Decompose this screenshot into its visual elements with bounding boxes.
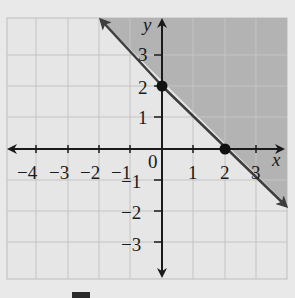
x-tick-label: −4: [17, 163, 37, 182]
partial-box-glyph: [72, 292, 90, 298]
y-tick-label: −2: [121, 203, 141, 222]
x-tick-label: 1: [188, 163, 198, 182]
x-tick-label: 2: [220, 163, 230, 182]
point-x-intercept: [220, 144, 231, 155]
x-axis-label: x: [272, 150, 280, 169]
y-tick-label: 1: [138, 108, 148, 127]
y-tick-label: −3: [121, 235, 141, 254]
y-tick-label: −1: [121, 172, 141, 191]
x-tick-label: −2: [80, 163, 100, 182]
x-tick-label: −3: [49, 163, 69, 182]
y-tick-label: 2: [138, 78, 148, 97]
x-tick-label: 3: [251, 163, 261, 182]
y-tick-label: 3: [138, 45, 148, 64]
y-axis-label: y: [143, 15, 151, 34]
origin-label: 0: [148, 152, 158, 171]
point-y-intercept: [157, 81, 168, 92]
